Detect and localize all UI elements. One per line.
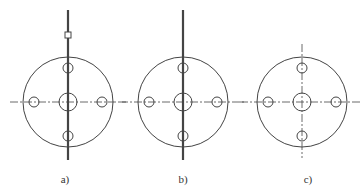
panel-b-caption: b)	[178, 173, 187, 185]
diagram-canvas	[0, 0, 364, 196]
panel-a-section-marker	[65, 32, 71, 38]
panel-a-caption: a)	[61, 173, 70, 185]
flange-diagram-figure: a) b) c)	[0, 0, 364, 196]
panel-c-caption: c)	[304, 173, 313, 185]
